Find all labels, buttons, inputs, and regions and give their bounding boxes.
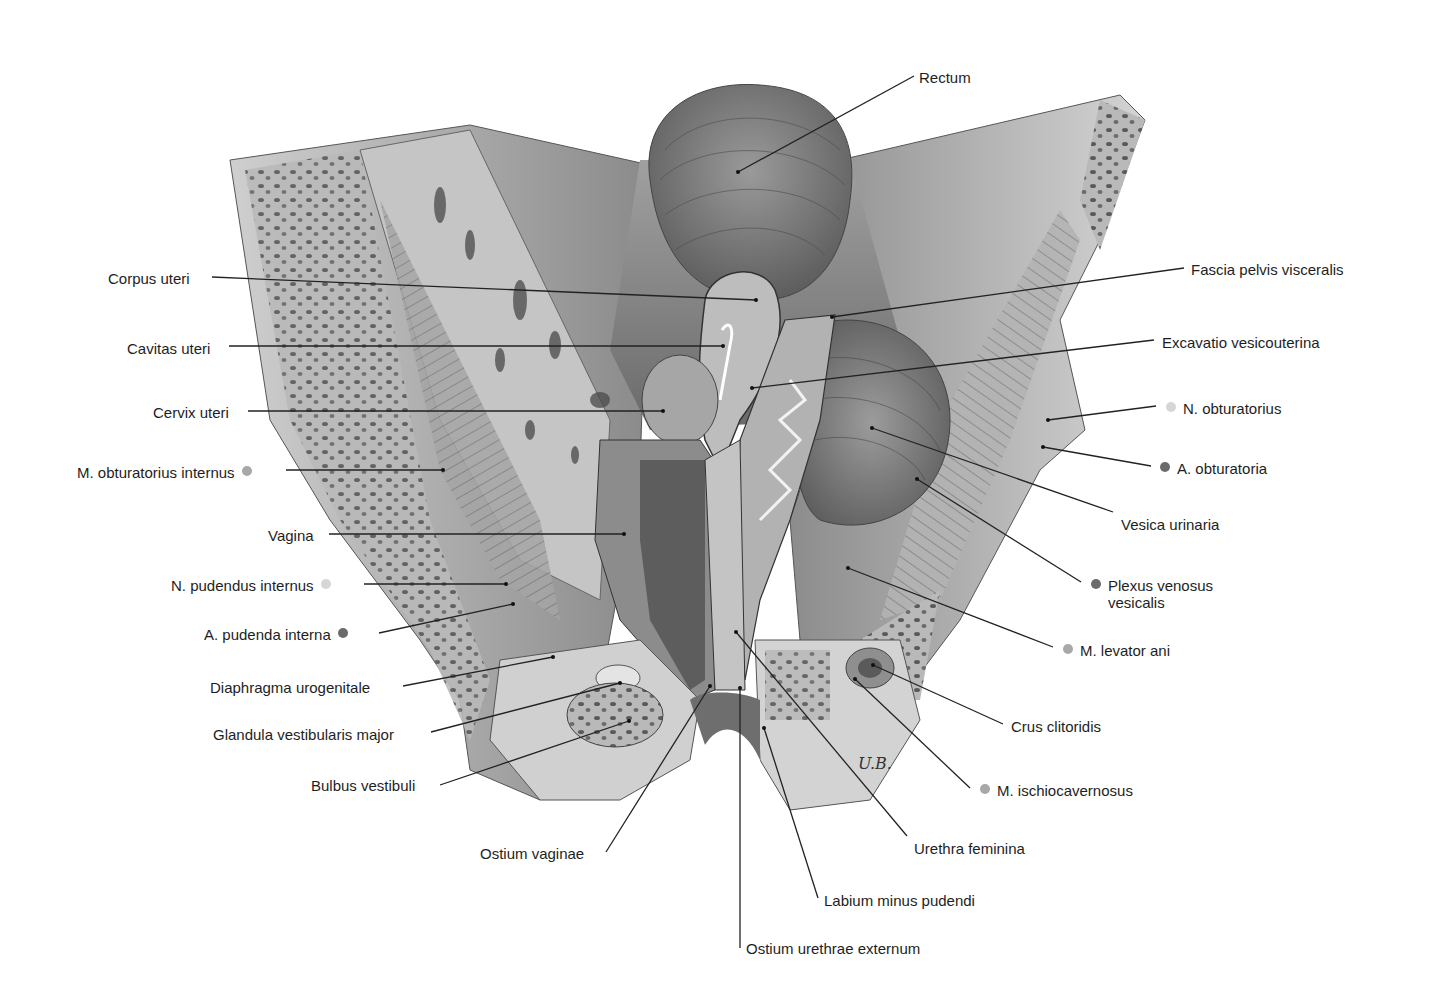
- medium-dot-icon: [242, 466, 252, 476]
- label-text-line2: vesicalis: [1091, 594, 1213, 611]
- dark-dot-icon: [1091, 579, 1101, 589]
- label-ostium-urethrae-externum: Ostium urethrae externum: [746, 938, 920, 957]
- label-text: Rectum: [919, 69, 971, 86]
- dark-dot-icon: [1160, 462, 1170, 472]
- medium-dot-icon: [980, 784, 990, 794]
- label-text: Cervix uteri: [153, 404, 229, 421]
- label-text: Plexus venosus: [1108, 577, 1213, 594]
- label-text: Vagina: [268, 527, 314, 544]
- medium-dot-icon: [1063, 644, 1073, 654]
- label-text: Cavitas uteri: [127, 340, 210, 357]
- label-n-pudendus-internus: N. pudendus internus: [171, 575, 331, 594]
- label-m-levator-ani: M. levator ani: [1063, 640, 1170, 659]
- pelvis-illustration: [0, 0, 1430, 1000]
- label-text: Crus clitoridis: [1011, 718, 1101, 735]
- light-dot-icon: [1166, 402, 1176, 412]
- label-text: Ostium vaginae: [480, 845, 584, 862]
- label-text: M. levator ani: [1080, 642, 1170, 659]
- label-text: A. pudenda interna: [204, 626, 331, 643]
- label-glandula-vestibularis-major: Glandula vestibularis major: [213, 724, 394, 743]
- label-vagina: Vagina: [268, 525, 314, 544]
- label-rectum: Rectum: [919, 67, 971, 86]
- label-m-ischiocavernosus: M. ischiocavernosus: [980, 780, 1133, 799]
- label-corpus-uteri: Corpus uteri: [108, 268, 190, 287]
- label-text: Diaphragma urogenitale: [210, 679, 370, 696]
- label-fascia-pelvis-visceralis: Fascia pelvis visceralis: [1191, 259, 1344, 278]
- label-cervix-uteri: Cervix uteri: [153, 402, 229, 421]
- label-text: Fascia pelvis visceralis: [1191, 261, 1344, 278]
- label-vesica-urinaria: Vesica urinaria: [1121, 514, 1219, 533]
- label-labium-minus-pudendi: Labium minus pudendi: [824, 890, 975, 909]
- label-text: Urethra feminina: [914, 840, 1025, 857]
- label-text: Vesica urinaria: [1121, 516, 1219, 533]
- label-n-obturatorius: N. obturatorius: [1166, 398, 1281, 417]
- dark-dot-icon: [338, 628, 348, 638]
- label-ostium-vaginae: Ostium vaginae: [480, 843, 584, 862]
- label-crus-clitoridis: Crus clitoridis: [1011, 716, 1101, 735]
- label-diaphragma-urogenitale: Diaphragma urogenitale: [210, 677, 370, 696]
- label-bulbus-vestibuli: Bulbus vestibuli: [311, 775, 415, 794]
- label-text: Ostium urethrae externum: [746, 940, 920, 957]
- artist-signature: U.B.: [858, 754, 892, 773]
- label-cavitas-uteri: Cavitas uteri: [127, 338, 210, 357]
- label-text: M. ischiocavernosus: [997, 782, 1133, 799]
- label-text: M. obturatorius internus: [77, 464, 235, 481]
- label-plexus-venosus-vesicalis: Plexus venosusvesicalis: [1091, 575, 1213, 611]
- label-text: Corpus uteri: [108, 270, 190, 287]
- label-urethra-feminina: Urethra feminina: [914, 838, 1025, 857]
- light-dot-icon: [321, 579, 331, 589]
- label-text: A. obturatoria: [1177, 460, 1267, 477]
- label-text: N. obturatorius: [1183, 400, 1281, 417]
- label-a-obturatoria: A. obturatoria: [1160, 458, 1267, 477]
- label-text: Labium minus pudendi: [824, 892, 975, 909]
- label-text: Glandula vestibularis major: [213, 726, 394, 743]
- label-text: Excavatio vesicouterina: [1162, 334, 1320, 351]
- label-excavatio-vesicouterina: Excavatio vesicouterina: [1162, 332, 1320, 351]
- label-a-pudenda-interna: A. pudenda interna: [204, 624, 348, 643]
- anatomy-figure: RectumCorpus uteriFascia pelvis visceral…: [0, 0, 1430, 1000]
- label-text: N. pudendus internus: [171, 577, 314, 594]
- label-text: Bulbus vestibuli: [311, 777, 415, 794]
- label-m-obturatorius-internus: M. obturatorius internus: [77, 462, 252, 481]
